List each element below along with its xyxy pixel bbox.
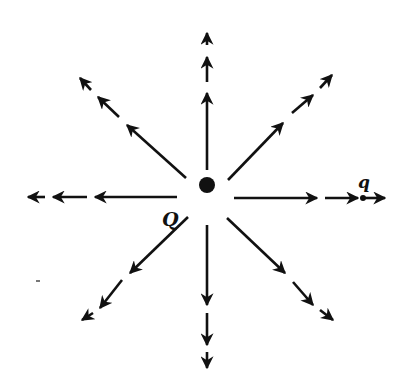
- field-lines: [28, 33, 385, 368]
- arrow-icon: [82, 313, 93, 320]
- field-line-up-left: [80, 78, 186, 178]
- scan-speck: [36, 280, 40, 282]
- arrow-icon: [127, 125, 186, 178]
- field-line-down-right: [227, 218, 333, 320]
- source-charge-label: Q: [162, 208, 179, 230]
- arrow-icon: [293, 282, 313, 305]
- arrow-icon: [227, 218, 285, 273]
- arrow-icon: [80, 78, 91, 90]
- field-line-up-right: [228, 75, 332, 180]
- arrow-icon: [292, 95, 313, 113]
- arrow-icon: [320, 310, 333, 320]
- arrow-icon: [320, 75, 332, 88]
- arrow-icon: [130, 217, 188, 273]
- arrow-icon: [100, 280, 122, 308]
- arrow-icon: [228, 123, 283, 180]
- electric-field-diagram: Q q: [0, 0, 400, 385]
- test-charge-dot: [360, 195, 366, 201]
- test-charge-label: q: [358, 172, 370, 192]
- arrow-icon: [98, 97, 119, 117]
- field-line-down-left: [82, 217, 188, 320]
- source-charge-dot: [199, 177, 215, 193]
